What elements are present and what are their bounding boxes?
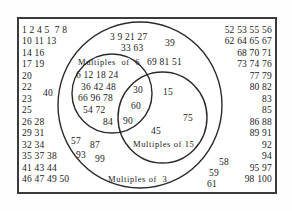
- outside-right-line-9: 86 88: [250, 117, 272, 128]
- outside-left-line-14: 46 47 49 50: [22, 174, 69, 185]
- only-3-top-line-4: 69 81 51: [147, 57, 182, 68]
- only-3-value-93: 93: [76, 150, 86, 161]
- outside-right-line-6: 80 82: [250, 82, 272, 93]
- intersection-value-60: 60: [131, 101, 141, 112]
- only-6-line-5: 84: [103, 117, 113, 128]
- intersection-value-30: 30: [133, 85, 143, 96]
- label-multiples-of-6: Multiples of 6: [78, 57, 140, 67]
- outside-right-line-3: 68 70 71: [237, 48, 272, 59]
- outside-right-line-8: 85: [262, 105, 272, 116]
- only-15-value-75: 75: [183, 113, 193, 124]
- outside-left-line-8: 25: [22, 105, 32, 116]
- outside-right-line-5: 77 79: [250, 71, 272, 82]
- outside-left-line-5: 20: [22, 71, 32, 82]
- only-15-value-45: 45: [151, 126, 161, 137]
- outside-left-line-11: 32 34: [22, 140, 44, 151]
- venn-diagram: 1 2 4 5 7 8 10 11 13 14 16 17 19 20 22 2…: [0, 0, 292, 211]
- only-6-line-1: 6 12 18 24: [76, 70, 118, 81]
- outside-right-value-59: 59: [209, 168, 219, 179]
- outside-left-line-12: 35 37 38: [22, 151, 57, 162]
- outside-right-line-7: 83: [262, 94, 272, 105]
- only-15-value-15: 15: [163, 87, 173, 98]
- outside-left-line-4: 17 19: [22, 59, 44, 70]
- outside-right-value-58: 58: [219, 157, 229, 168]
- outside-left-line-6: 22: [22, 82, 32, 93]
- outside-right-line-11: 92: [262, 140, 272, 151]
- label-multiples-of-3: Multiples of 3: [108, 174, 167, 184]
- only-3-top-line-1: 3 9 21 27: [110, 32, 147, 43]
- label-multiples-of-15: Multiples of 15: [133, 139, 194, 149]
- outside-left-line-1: 1 2 4 5 7 8: [22, 25, 67, 36]
- outside-right-line-12: 94: [262, 151, 272, 162]
- intersection-value-90: 90: [123, 116, 133, 127]
- only-6-line-3: 66 96 78: [78, 93, 113, 104]
- only-3-value-57: 57: [71, 136, 81, 147]
- outside-right-line-14: 98 100: [245, 174, 272, 185]
- only-3-value-87: 87: [90, 140, 100, 151]
- outside-left-line-13: 41 43 44: [22, 163, 57, 174]
- outside-right-line-10: 89 91: [250, 128, 272, 139]
- only-3-top-line-3: 39: [165, 38, 175, 49]
- only-6-line-4: 54 72: [83, 105, 105, 116]
- outside-right-line-4: 73 74 76: [237, 59, 272, 70]
- outside-left-line-9: 26 28: [22, 117, 44, 128]
- outside-left-line-3: 14 16: [22, 48, 44, 59]
- outside-right-line-2: 62 64 65 67: [225, 36, 272, 47]
- outside-left-value-40: 40: [43, 88, 53, 99]
- only-3-value-99: 99: [95, 154, 105, 165]
- outside-right-line-13: 95 97: [250, 163, 272, 174]
- outside-left-line-7: 23: [22, 94, 32, 105]
- outside-left-line-10: 29 31: [22, 128, 44, 139]
- outside-left-line-2: 10 11 13: [22, 36, 57, 47]
- only-6-line-2: 36 42 48: [81, 82, 116, 93]
- outside-right-value-61: 61: [207, 179, 217, 190]
- only-3-top-line-2: 33 63: [121, 43, 143, 54]
- outside-right-line-1: 52 53 55 56: [225, 25, 272, 36]
